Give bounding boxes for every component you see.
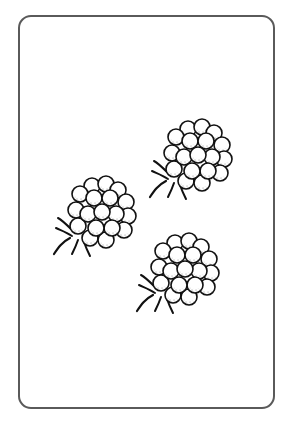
raspberry-top-right-icon <box>146 113 246 213</box>
raspberry-bottom-right-icon <box>133 227 233 327</box>
